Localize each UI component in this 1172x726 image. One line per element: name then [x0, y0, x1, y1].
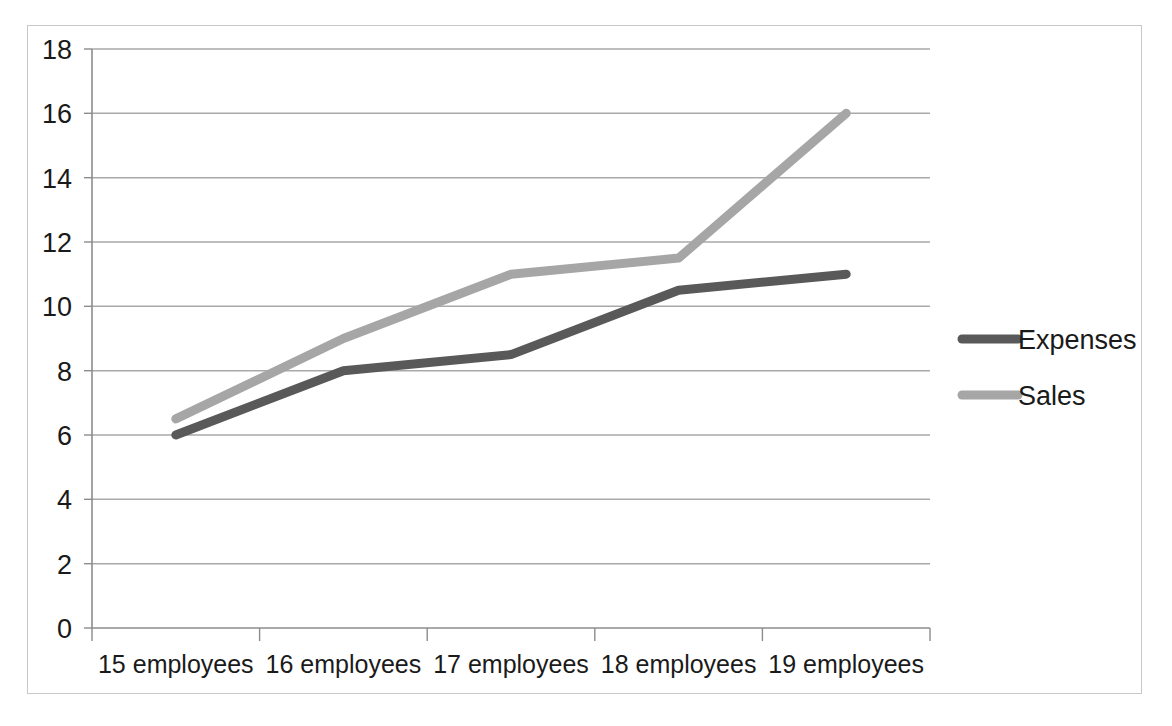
- y-axis-label-2: 2: [57, 550, 72, 580]
- x-axis-label-1: 16 employees: [266, 650, 422, 678]
- x-axis-label-3: 18 employees: [601, 650, 757, 678]
- series-line-sales: [176, 113, 846, 419]
- y-axis-label-18: 18: [42, 35, 72, 65]
- y-tick-marks: [84, 49, 92, 628]
- series-line-expenses: [176, 274, 846, 435]
- x-tick-marks: [92, 628, 930, 641]
- line-chart: 18 16 14 12 10 8 6 4 2 0 15 employees 16…: [0, 0, 1172, 726]
- chart-legend: Expenses Sales: [962, 325, 1137, 411]
- y-axis-label-16: 16: [42, 99, 72, 129]
- axes: [92, 49, 930, 628]
- y-axis-label-8: 8: [57, 357, 72, 387]
- y-axis-label-14: 14: [42, 164, 72, 194]
- x-axis-labels: 15 employees 16 employees 17 employees 1…: [98, 650, 924, 678]
- y-axis-label-4: 4: [57, 485, 72, 515]
- x-axis-label-2: 17 employees: [433, 650, 589, 678]
- x-axis-label-4: 19 employees: [768, 650, 924, 678]
- gridlines: [92, 49, 930, 564]
- y-axis-label-0: 0: [57, 614, 72, 644]
- legend-label-expenses: Expenses: [1018, 325, 1137, 355]
- y-axis-label-10: 10: [42, 292, 72, 322]
- y-axis-labels: 18 16 14 12 10 8 6 4 2 0: [42, 35, 72, 644]
- y-axis-label-6: 6: [57, 421, 72, 451]
- series-lines: [176, 113, 846, 435]
- y-axis-label-12: 12: [42, 228, 72, 258]
- x-axis-label-0: 15 employees: [98, 650, 254, 678]
- legend-label-sales: Sales: [1018, 381, 1086, 411]
